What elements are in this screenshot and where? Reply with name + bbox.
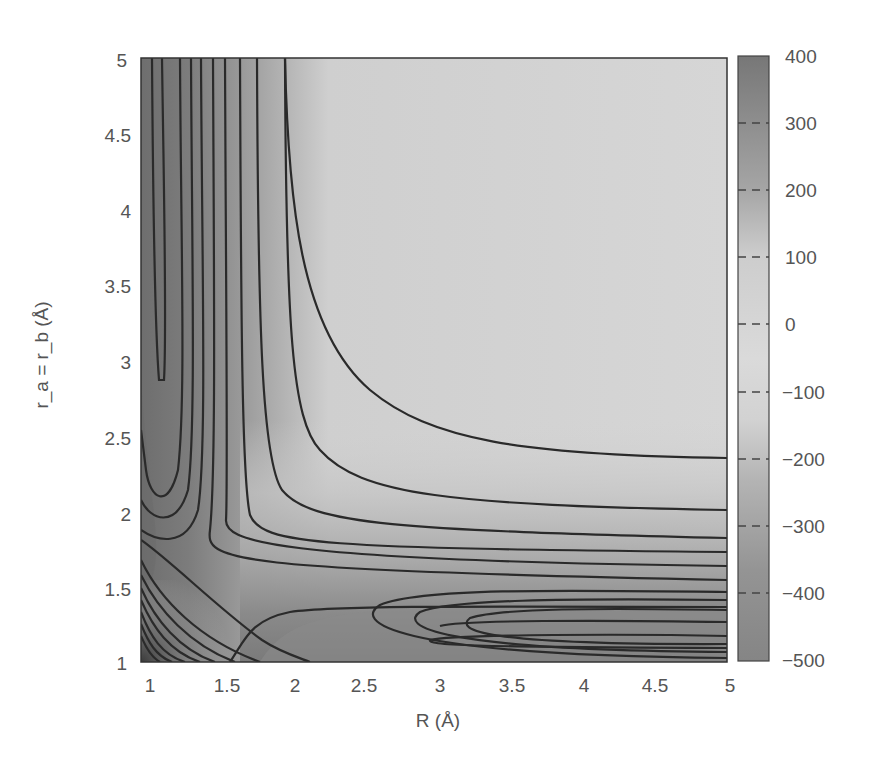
colorbar-tick: 0 <box>785 314 796 335</box>
x-tick: 1.5 <box>214 675 240 696</box>
colorbar-tick: 100 <box>785 247 817 268</box>
y-tick: 1 <box>116 653 127 674</box>
y-axis-ticks: 1 1.5 2 2.5 3 3.5 4 4.5 5 <box>105 50 132 674</box>
y-tick: 2 <box>120 504 131 525</box>
y-tick: 5 <box>116 50 127 71</box>
x-axis-label: R (Å) <box>416 710 460 731</box>
colorbar-tick: −400 <box>782 583 825 604</box>
y-tick: 2.5 <box>105 428 131 449</box>
y-tick: 1.5 <box>105 579 131 600</box>
x-tick: 2 <box>290 675 301 696</box>
x-tick: 2.5 <box>351 675 377 696</box>
colorbar-tick: 200 <box>785 180 817 201</box>
colorbar-tick-labels: 400 300 200 100 0 −100 −200 −300 −400 −5… <box>782 46 825 671</box>
y-tick: 4 <box>120 201 131 222</box>
colorbar: 400 300 200 100 0 −100 −200 −300 −400 −5… <box>738 46 825 671</box>
x-tick: 1 <box>145 675 156 696</box>
y-tick: 3 <box>120 352 131 373</box>
colorbar-tick: −100 <box>782 382 825 403</box>
y-tick: 3.5 <box>105 276 131 297</box>
colorbar-tick: −500 <box>782 650 825 671</box>
colorbar-tick: −300 <box>782 516 825 537</box>
colorbar-tick: 300 <box>785 113 817 134</box>
x-tick: 5 <box>725 675 736 696</box>
x-tick: 3 <box>435 675 446 696</box>
y-tick: 4.5 <box>105 125 131 146</box>
colorbar-tick: 400 <box>785 46 817 67</box>
contour-figure: 400 300 200 100 0 −100 −200 −300 −400 −5… <box>0 0 871 769</box>
x-tick: 4 <box>579 675 590 696</box>
plot-area <box>141 58 727 662</box>
colorbar-tick: −200 <box>782 449 825 470</box>
x-axis-ticks: 1 1.5 2 2.5 3 3.5 4 4.5 5 <box>145 675 736 696</box>
x-tick: 4.5 <box>642 675 668 696</box>
y-axis-label: r_a = r_b (Å) <box>31 301 53 408</box>
x-tick: 3.5 <box>499 675 525 696</box>
